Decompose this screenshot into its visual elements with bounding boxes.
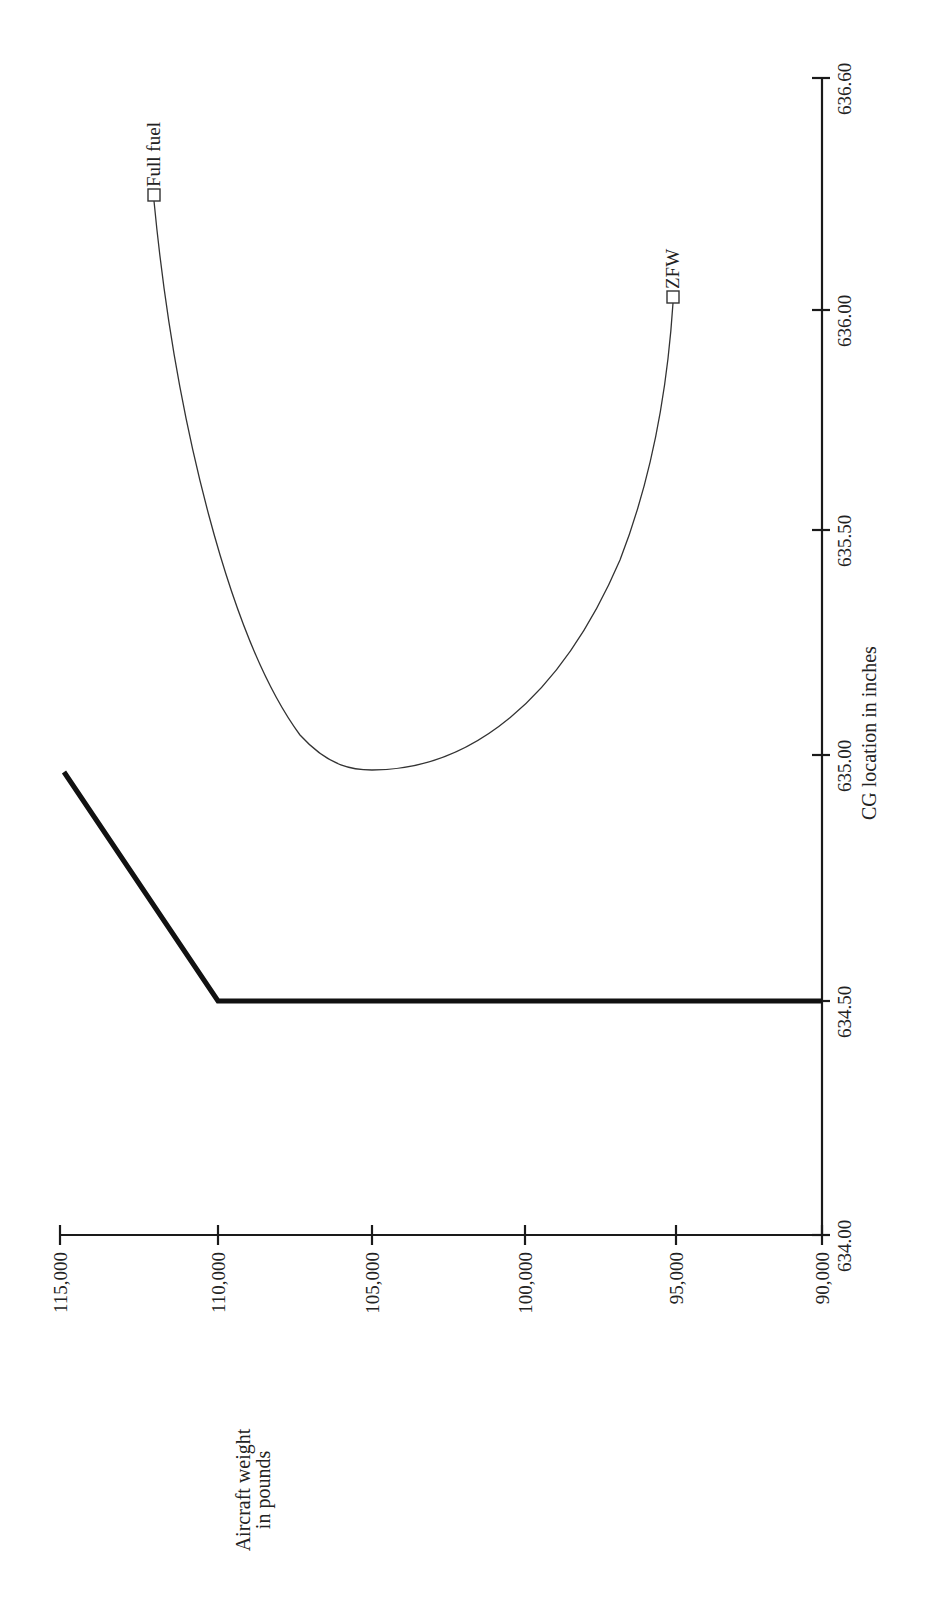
weight-axis: 115,000 110,000 105,000 100,000 95,000 9… — [50, 1225, 833, 1551]
weight-tick-label: 95,000 — [666, 1252, 687, 1304]
weight-tick-label: 100,000 — [515, 1252, 536, 1314]
fuel-burn-curve — [154, 201, 673, 770]
cg-envelope-chart: 634.00 634.50 635.00 635.50 636.00 636.6… — [0, 0, 929, 1607]
cg-tick-label: 635.50 — [834, 515, 855, 567]
cg-tick-label: 636.60 — [834, 63, 855, 115]
weight-tick-label: 105,000 — [362, 1252, 383, 1314]
cg-tick-label: 635.00 — [834, 740, 855, 792]
cg-axis: 634.00 634.50 635.00 635.50 636.00 636.6… — [812, 63, 880, 1272]
zfw-label: ZFW — [662, 249, 683, 289]
full-fuel-label: Full fuel — [143, 122, 164, 187]
weight-axis-title-line2: in pounds — [252, 1451, 275, 1530]
weight-tick-label: 90,000 — [812, 1252, 833, 1304]
weight-tick-label: 110,000 — [208, 1252, 229, 1313]
zfw-marker — [667, 291, 679, 303]
cg-axis-title: CG location in inches — [858, 646, 880, 820]
full-fuel-marker — [148, 189, 160, 201]
cg-tick-label: 634.00 — [834, 1220, 855, 1272]
forward-cg-limit-line — [64, 772, 822, 1001]
cg-tick-label: 636.00 — [834, 295, 855, 347]
cg-tick-label: 634.50 — [834, 986, 855, 1038]
weight-tick-label: 115,000 — [50, 1252, 71, 1313]
